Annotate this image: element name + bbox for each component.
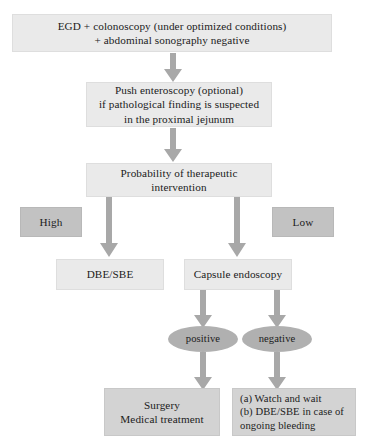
node-watch-wait-line1: (a) Watch and wait — [240, 392, 322, 406]
node-probability-line2: intervention — [151, 180, 206, 194]
node-high: High — [20, 207, 82, 237]
node-surgery-line1: Surgery — [144, 398, 180, 412]
node-surgery-line2: Medical treatment — [120, 412, 203, 426]
arrow-positive-to-surgery — [194, 352, 212, 390]
node-probability: Probability of therapeutic intervention — [86, 163, 272, 197]
node-push-enteroscopy-line3: in the proximal jejunum — [124, 112, 234, 126]
node-capsule-endoscopy: Capsule endoscopy — [184, 259, 292, 290]
node-push-enteroscopy: Push enteroscopy (optional) if pathologi… — [86, 82, 272, 127]
node-negative: negative — [242, 326, 312, 352]
node-low: Low — [272, 207, 334, 237]
node-push-enteroscopy-line1: Push enteroscopy (optional) — [115, 83, 243, 97]
node-negative-label: negative — [259, 332, 296, 346]
node-probability-line1: Probability of therapeutic — [121, 166, 238, 180]
arrow-negative-to-watch-wait — [268, 352, 286, 390]
arrow-push-to-probability — [164, 128, 182, 162]
arrow-capsule-to-negative — [268, 290, 286, 328]
arrow-capsule-to-positive — [194, 290, 212, 328]
node-high-label: High — [40, 215, 63, 229]
arrow-initial-to-push — [164, 53, 182, 82]
node-watch-wait-line2: (b) DBE/SBE in case of — [240, 405, 344, 419]
arrow-probability-to-dbe — [100, 197, 118, 257]
node-watch-wait: (a) Watch and wait (b) DBE/SBE in case o… — [232, 388, 356, 436]
node-dbe-sbe: DBE/SBE — [56, 259, 164, 290]
node-initial-workup-line2: + abdominal sonography negative — [94, 33, 249, 47]
node-initial-workup: EGD + colonoscopy (under optimized condi… — [12, 14, 332, 52]
node-initial-workup-line1: EGD + colonoscopy (under optimized condi… — [58, 19, 287, 33]
node-positive-label: positive — [186, 332, 220, 346]
node-push-enteroscopy-line2: if pathological finding is suspected — [99, 97, 259, 111]
flowchart-diagram: EGD + colonoscopy (under optimized condi… — [0, 0, 376, 448]
node-capsule-endoscopy-label: Capsule endoscopy — [194, 267, 282, 281]
node-dbe-sbe-label: DBE/SBE — [87, 267, 134, 281]
node-low-label: Low — [293, 215, 314, 229]
node-positive: positive — [168, 326, 238, 352]
arrow-probability-to-capsule — [228, 197, 246, 257]
node-watch-wait-line3: ongoing bleeding — [240, 419, 315, 433]
node-surgery: Surgery Medical treatment — [104, 388, 220, 436]
